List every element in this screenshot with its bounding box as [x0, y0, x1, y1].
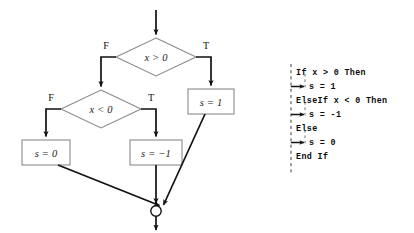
- code-line-7: End If: [288, 150, 328, 164]
- decision-2-label: x < 0: [89, 104, 112, 115]
- process-label-s-eq-minus-1: s = −1: [141, 147, 171, 158]
- figure-root: x > 0 F T x < 0 F T s = 1 s = 0 s = −1: [0, 0, 414, 233]
- decision-1-false-label: F: [103, 40, 109, 51]
- decision-1-true-label: T: [203, 40, 209, 51]
- decision-1-label: x > 0: [144, 52, 167, 63]
- process-label-s-eq-0: s = 0: [35, 147, 58, 158]
- code-line-3: ElseIf x < 0 Then: [288, 94, 387, 108]
- decision-2-true-label: T: [148, 92, 154, 103]
- decision-2-false-label: F: [48, 92, 54, 103]
- code-line-5: Else: [288, 122, 318, 136]
- code-line-2: s = 1: [288, 80, 336, 94]
- pseudocode-panel: If x > 0 Then s = 1 ElseIf x < 0 Then s …: [288, 62, 412, 178]
- code-line-1: If x > 0 Then: [288, 66, 366, 80]
- process-label-s-eq-1: s = 1: [200, 96, 223, 107]
- code-line-4: s = -1: [288, 108, 341, 122]
- code-line-6: s = 0: [288, 136, 336, 150]
